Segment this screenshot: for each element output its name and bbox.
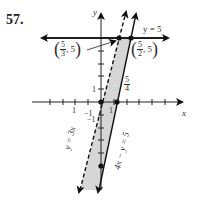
point-x-intercept <box>114 99 119 104</box>
y-axis-label: y <box>93 7 97 17</box>
label-x-intercept: 54 <box>124 76 130 93</box>
label-point-5-3-5: ( 53 , 5 ) <box>54 40 81 58</box>
label-y-equals-5: y = 5 <box>143 24 162 34</box>
point-0-neg5 <box>98 163 103 168</box>
tick-label-neg1-y: −1 <box>87 115 96 124</box>
graph-canvas <box>0 0 197 202</box>
point-5-3-5 <box>116 35 121 40</box>
label-point-5-2-5: ( 52 , 5 ) <box>131 40 158 58</box>
tick-label-1-y: 1 <box>92 85 96 94</box>
tick-label-1-x: 1 <box>109 106 113 115</box>
x-axis-label: x <box>182 108 186 118</box>
tick-label-1-x-left: 1 <box>72 106 76 115</box>
point-origin <box>98 99 103 104</box>
